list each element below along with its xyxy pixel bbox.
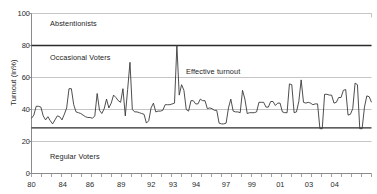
x-tick-label: 80 <box>27 181 35 189</box>
x-tick-label: 86 <box>86 181 94 189</box>
x-tick-label: 97 <box>222 181 230 189</box>
turnout-chart: Turnout (in%) 0 20 40 60 80 100 80848689… <box>0 0 377 194</box>
axis-lines <box>29 14 372 174</box>
annotation-regular-voters: Regular Voters <box>50 152 100 161</box>
annotation-effective-turnout: Effective turnout <box>186 67 240 76</box>
x-tick-label: 89 <box>117 181 125 189</box>
x-tick-label: 92 <box>147 181 155 189</box>
x-tick-label: 93 <box>169 181 177 189</box>
x-tick-label: 84 <box>59 181 67 189</box>
x-tick-label: 04 <box>331 181 339 189</box>
annotation-abstentionists: Abstentionists <box>50 19 97 28</box>
x-tick-label: 94 <box>192 181 200 189</box>
gridlines <box>32 14 372 142</box>
annotation-occasional-voters: Occasional Voters <box>50 53 111 62</box>
plot-area <box>0 0 377 194</box>
x-axis-ticks <box>32 174 372 178</box>
x-tick-label: 01 <box>276 181 284 189</box>
x-tick-label: 03 <box>305 181 313 189</box>
x-tick-label: 99 <box>248 181 256 189</box>
